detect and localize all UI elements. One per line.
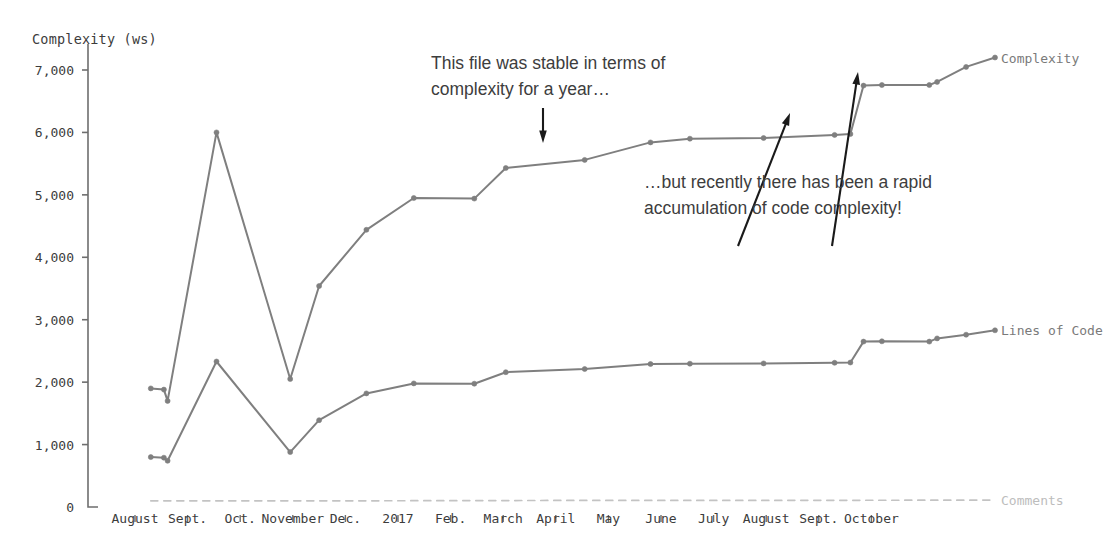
series-marker [761, 136, 766, 141]
series-marker [364, 391, 369, 396]
series-marker [317, 418, 322, 423]
x-axis-tick-label: March [484, 511, 523, 526]
series-marker [161, 387, 166, 392]
series-marker [687, 361, 692, 366]
series-marker [879, 83, 884, 88]
series-marker [214, 359, 219, 364]
series-marker [648, 140, 653, 145]
annotation-rapid-note: …but recently there has been a rapidaccu… [644, 170, 932, 222]
series-marker [317, 284, 322, 289]
y-axis-tick-label: 7,000 [12, 63, 74, 78]
series-line [151, 500, 995, 501]
series-marker [935, 79, 940, 84]
series-marker [993, 55, 998, 60]
series-marker [848, 360, 853, 365]
annotation-arrow-head [539, 131, 547, 143]
series-marker [472, 381, 477, 386]
series-line [151, 58, 995, 401]
series-marker [165, 398, 170, 403]
x-axis-tick-label: 2017 [382, 511, 413, 526]
series-marker [879, 339, 884, 344]
series-marker [214, 130, 219, 135]
series-marker [993, 328, 998, 333]
series-line [151, 330, 995, 461]
series-marker [832, 132, 837, 137]
annotation-arrow-head [852, 72, 860, 85]
series-label-complexity: Complexity [1001, 50, 1079, 65]
series-marker [927, 83, 932, 88]
y-axis-tick-label: 2,000 [12, 375, 74, 390]
series-marker [927, 339, 932, 344]
series-marker [832, 360, 837, 365]
y-axis-tick-label: 3,000 [12, 312, 74, 327]
series-label-lines-of-code: Lines of Code [1001, 323, 1103, 338]
series-marker [364, 227, 369, 232]
x-axis-tick-label: Sept. [799, 511, 838, 526]
series-marker [648, 362, 653, 367]
series-marker [761, 361, 766, 366]
x-axis-tick-label: Sept. [168, 511, 207, 526]
series-marker [165, 458, 170, 463]
series-label-comments: Comments [1001, 493, 1064, 508]
y-axis-tick-label: 4,000 [12, 250, 74, 265]
x-axis-tick-label: August [112, 511, 159, 526]
annotation-line: complexity for a year… [431, 77, 665, 103]
series-marker [472, 196, 477, 201]
series-marker [411, 381, 416, 386]
series-marker [503, 370, 508, 375]
x-axis-tick-label: October [844, 511, 899, 526]
series-marker [148, 455, 153, 460]
x-axis-tick-label: May [597, 511, 620, 526]
series-marker [935, 336, 940, 341]
y-axis-tick-label: 1,000 [12, 437, 74, 452]
x-axis-tick-label: Oct. [225, 511, 256, 526]
y-axis-tick-label: 6,000 [12, 125, 74, 140]
series-marker [288, 450, 293, 455]
x-axis-tick-label: Dec. [330, 511, 361, 526]
series-marker [687, 136, 692, 141]
series-marker [861, 83, 866, 88]
y-axis-tick-label: 5,000 [12, 187, 74, 202]
series-marker [582, 367, 587, 372]
series-marker [411, 196, 416, 201]
series-marker [148, 386, 153, 391]
x-axis-tick-label: August [743, 511, 790, 526]
annotation-stable-note: This file was stable in terms ofcomplexi… [431, 51, 665, 103]
annotation-line: …but recently there has been a rapid [644, 170, 932, 196]
x-axis-tick-label: November [261, 511, 324, 526]
series-marker [582, 157, 587, 162]
annotation-line: accumulation of code complexity! [644, 196, 932, 222]
x-axis-tick-label: Feb. [435, 511, 466, 526]
series-marker [503, 166, 508, 171]
x-axis-tick-label: July [698, 511, 729, 526]
x-axis-tick-label: June [645, 511, 676, 526]
series-marker [288, 377, 293, 382]
x-axis-tick-label: April [536, 511, 575, 526]
annotation-line: This file was stable in terms of [431, 51, 665, 77]
y-axis-spine [88, 44, 98, 507]
annotation-arrow-head [782, 113, 790, 126]
series-marker [861, 339, 866, 344]
series-marker [964, 64, 969, 69]
series-marker [964, 332, 969, 337]
y-axis-tick-label: 0 [12, 500, 74, 515]
